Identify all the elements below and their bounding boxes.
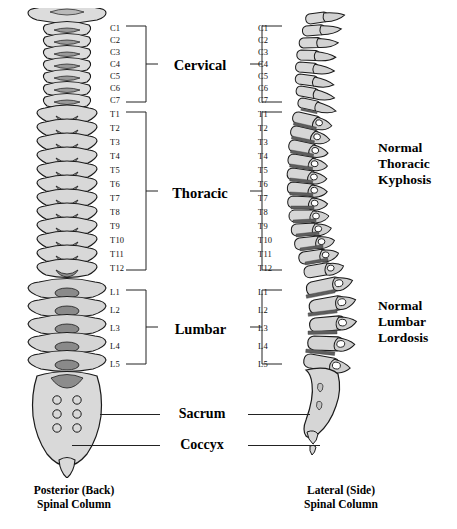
- kyphosis-line-1: Normal: [378, 140, 431, 156]
- label-L4: L4: [110, 342, 120, 351]
- label-right-T8: T8: [258, 208, 268, 217]
- label-T6: T6: [110, 180, 120, 189]
- caption-posterior-line-1: Posterior (Back): [0, 483, 148, 497]
- label-T12: T12: [110, 264, 124, 273]
- label-right-T1: T1: [258, 110, 268, 119]
- region-thoracic: Thoracic: [155, 186, 245, 201]
- kyphosis-line-3: Kyphosis: [378, 172, 431, 188]
- label-L1: L1: [110, 288, 120, 297]
- label-right-C6: C6: [258, 84, 268, 93]
- region-cervical: Cervical: [160, 58, 240, 73]
- label-T2: T2: [110, 124, 120, 133]
- label-C5: C5: [110, 72, 120, 81]
- label-T3: T3: [110, 138, 120, 147]
- spine-diagram: C1 C2 C3 C4 C5 C6 C7 T1 T2 T3 T4 T5 T6 T…: [0, 0, 457, 529]
- label-right-L5: L5: [258, 360, 268, 369]
- label-right-L3: L3: [258, 324, 268, 333]
- lordosis-line-3: Lordosis: [378, 330, 428, 346]
- coccyx-leader-left: [72, 445, 160, 446]
- label-right-L4: L4: [258, 342, 268, 351]
- region-sacrum: Sacrum: [160, 407, 244, 421]
- sacrum-leader-right: [248, 414, 310, 415]
- label-T9: T9: [110, 222, 120, 231]
- label-T4: T4: [110, 152, 120, 161]
- label-right-L1: L1: [258, 288, 268, 297]
- label-right-T3: T3: [258, 138, 268, 147]
- label-C4: C4: [110, 60, 120, 69]
- lordosis-line-1: Normal: [378, 298, 428, 314]
- label-right-T10: T10: [258, 236, 272, 245]
- label-T1: T1: [110, 110, 120, 119]
- label-right-C1: C1: [258, 24, 268, 33]
- sacrum-leader-left: [100, 414, 160, 415]
- label-right-T5: T5: [258, 166, 268, 175]
- label-L5: L5: [110, 360, 120, 369]
- region-coccyx: Coccyx: [160, 438, 244, 452]
- kyphosis-line-2: Thoracic: [378, 156, 431, 172]
- label-C7: C7: [110, 96, 120, 105]
- lateral-spine-illustration: [285, 8, 395, 478]
- label-L3: L3: [110, 324, 120, 333]
- lordosis-line-2: Lumbar: [378, 314, 428, 330]
- caption-posterior: Posterior (Back) Spinal Column: [0, 483, 148, 512]
- label-right-C3: C3: [258, 48, 268, 57]
- caption-lateral: Lateral (Side) Spinal Column: [266, 483, 416, 512]
- label-right-T6: T6: [258, 180, 268, 189]
- label-T10: T10: [110, 236, 124, 245]
- label-T7: T7: [110, 194, 120, 203]
- region-lumbar: Lumbar: [158, 322, 243, 337]
- label-right-T2: T2: [258, 124, 268, 133]
- label-T11: T11: [110, 250, 124, 259]
- label-right-T7: T7: [258, 194, 268, 203]
- caption-posterior-line-2: Spinal Column: [0, 497, 148, 511]
- caption-lateral-line-1: Lateral (Side): [266, 483, 416, 497]
- left-brackets: [124, 20, 174, 420]
- label-right-C4: C4: [258, 60, 268, 69]
- label-T5: T5: [110, 166, 120, 175]
- label-right-T9: T9: [258, 222, 268, 231]
- label-right-C2: C2: [258, 36, 268, 45]
- annotation-lumbar-lordosis: Normal Lumbar Lordosis: [378, 298, 428, 346]
- label-right-T12: T12: [258, 264, 272, 273]
- label-right-T11: T11: [258, 250, 272, 259]
- label-L2: L2: [110, 306, 120, 315]
- label-C6: C6: [110, 84, 120, 93]
- posterior-spine-illustration: [12, 8, 122, 478]
- label-T8: T8: [110, 208, 120, 217]
- caption-lateral-line-2: Spinal Column: [266, 497, 416, 511]
- label-C3: C3: [110, 48, 120, 57]
- label-right-C7: C7: [258, 96, 268, 105]
- label-right-T4: T4: [258, 152, 268, 161]
- label-right-C5: C5: [258, 72, 268, 81]
- label-C2: C2: [110, 36, 120, 45]
- label-right-L2: L2: [258, 306, 268, 315]
- annotation-thoracic-kyphosis: Normal Thoracic Kyphosis: [378, 140, 431, 188]
- label-C1: C1: [110, 24, 120, 33]
- coccyx-leader-right: [248, 445, 320, 446]
